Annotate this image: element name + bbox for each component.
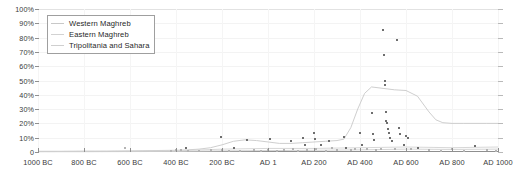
y-tick-mark [35, 138, 39, 139]
scatter-point [391, 140, 393, 142]
x-axis-tick-label: 1000 BC [23, 158, 52, 167]
scatter-point [124, 147, 126, 149]
scatter-point [474, 145, 476, 147]
legend-label-western-maghreb: Western Maghreb [69, 19, 131, 28]
scatter-point [410, 148, 412, 150]
scatter-point [336, 149, 338, 151]
x-tick-mark [84, 148, 85, 152]
legend-label-eastern-maghreb: Eastern Maghreb [69, 30, 129, 39]
legend-item-eastern-maghreb: Eastern Maghreb [51, 29, 150, 40]
y-tick-mark-right [498, 66, 503, 67]
scatter-point [375, 149, 377, 151]
y-tick-mark-right [498, 52, 503, 53]
legend-item-western-maghreb: Western Maghreb [51, 18, 150, 29]
y-tick-mark-right [498, 23, 503, 24]
scatter-point [276, 150, 278, 152]
legend-item-tripolitania-and-sahara: Tripolitania and Sahara [51, 40, 150, 51]
scatter-point [486, 149, 488, 151]
x-axis-tick-label: AD 1 [260, 158, 277, 167]
scatter-point [233, 147, 235, 149]
scatter-point [180, 149, 182, 151]
scatter-point [371, 112, 373, 114]
y-axis-tick-label: 80% [19, 33, 34, 42]
scatter-point [359, 132, 361, 134]
y-tick-mark [35, 81, 39, 82]
scatter-point [388, 132, 390, 134]
y-axis-tick-label: 60% [19, 62, 34, 71]
scatter-point [260, 150, 262, 152]
scatter-point [331, 147, 333, 149]
scatter-point [403, 144, 405, 146]
scatter-point [372, 133, 374, 135]
scatter-point [292, 148, 294, 150]
y-axis-tick-label: 90% [19, 19, 34, 28]
y-tick-mark-right [498, 152, 503, 153]
x-axis-tick-label: AD 200 [301, 158, 326, 167]
y-tick-mark-right [498, 38, 503, 39]
scatter-point [380, 148, 382, 150]
x-axis-tick-label: AD 600 [393, 158, 418, 167]
scatter-point [428, 149, 430, 151]
scatter-point [315, 148, 317, 150]
x-axis-tick-label: AD 1000 [483, 158, 512, 167]
scatter-point [220, 136, 222, 138]
y-tick-mark [35, 9, 39, 10]
legend-line-icon-eastern-maghreb [51, 34, 64, 35]
x-axis-tick-label: 200 BC [209, 158, 234, 167]
y-axis-tick-label: 30% [19, 105, 34, 114]
scatter-point [253, 149, 255, 151]
scatter-point [343, 136, 345, 138]
scatter-point [386, 122, 388, 124]
y-tick-mark-right [498, 81, 503, 82]
scatter-point [354, 148, 356, 150]
scatter-point [394, 148, 396, 150]
scatter-point [306, 149, 308, 151]
y-tick-mark [35, 66, 39, 67]
y-tick-mark-right [498, 123, 503, 124]
scatter-point [366, 148, 368, 150]
y-axis-tick-label: 10% [19, 133, 34, 142]
scatter-point [399, 133, 401, 135]
x-axis-tick-label: 400 BC [163, 158, 188, 167]
scatter-point [325, 150, 327, 152]
scatter-point [283, 149, 285, 151]
y-tick-mark-right [498, 109, 503, 110]
scatter-point [198, 150, 200, 152]
x-axis-tick-label: AD 800 [439, 158, 464, 167]
x-tick-mark [130, 148, 131, 152]
scatter-point [239, 150, 241, 152]
scatter-point [384, 84, 386, 86]
scatter-point [463, 150, 465, 152]
scatter-point [314, 138, 316, 140]
y-axis-tick-label: 70% [19, 47, 34, 56]
scatter-point [246, 139, 248, 141]
scatter-point [384, 80, 386, 82]
x-tick-mark [406, 148, 407, 152]
y-axis-tick-label: 0 [30, 148, 34, 157]
scatter-point [290, 140, 292, 142]
scatter-point [297, 150, 299, 152]
scatter-point [187, 150, 189, 152]
x-tick-mark [452, 148, 453, 152]
y-tick-mark-right [498, 138, 503, 139]
x-tick-mark [38, 148, 39, 152]
y-axis-tick-label: 20% [19, 119, 34, 128]
legend: Western Maghreb Eastern Maghreb Tripolit… [47, 15, 155, 54]
x-axis-tick-label: 800 BC [71, 158, 96, 167]
scatter-point [417, 147, 419, 149]
x-tick-mark [268, 148, 269, 152]
y-axis-tick-label: 100% [15, 5, 34, 14]
scatter-point [383, 54, 385, 56]
scatter-point [313, 132, 315, 134]
scatter-point [185, 147, 187, 149]
scatter-point [345, 147, 347, 149]
y-axis-tick-label: 40% [19, 90, 34, 99]
x-axis-tick-label: 600 BC [117, 158, 142, 167]
scatter-point [302, 137, 304, 139]
y-tick-mark [35, 52, 39, 53]
scatter-point [382, 29, 384, 31]
y-axis-tick-label: 50% [19, 76, 34, 85]
y-tick-mark [35, 23, 39, 24]
legend-line-icon-tripolitania-and-sahara [51, 45, 64, 46]
